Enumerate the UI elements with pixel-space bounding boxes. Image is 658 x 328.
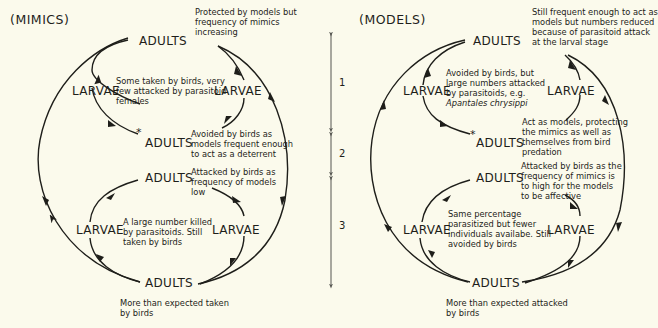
mimics-upper-left-larvae: LARVAE: [72, 84, 120, 98]
mimics-arrows: [38, 38, 287, 284]
models-lower-left-larvae: LARVAE: [403, 223, 451, 237]
mimics-upper-right-larvae: LARVAE: [214, 84, 262, 98]
models-upper-left-larvae: LARVAE: [403, 84, 451, 98]
models-upper-right-larvae: LARVAE: [547, 84, 595, 98]
models-lower-note: Attacked by birds as the frequency of mi…: [521, 161, 622, 201]
scale-segment-3: 3: [339, 220, 345, 231]
mimics-mid-note: Avoided by birds as models frequent enou…: [191, 129, 293, 159]
mimics-bottom-note: More than expected taken by birds: [120, 298, 229, 318]
models-mid-adults: ADULTS: [476, 136, 524, 150]
models-upper-center-species: Apantales chrysippi: [446, 98, 528, 108]
mimics-bottom-adults: ADULTS: [145, 276, 193, 290]
mimics-top-note: Protected by models but frequency of mim…: [195, 7, 297, 37]
mimics-mid-star: *: [136, 126, 142, 139]
lower-larvae-to-adults: [90, 180, 138, 222]
species-name: Apantales chrysippi: [446, 98, 528, 108]
models-mid-note: Act as models, protecting the mimics as …: [522, 117, 628, 157]
mimics-lower-right-larvae: LARVAE: [212, 223, 260, 237]
mimics-lower-left-larvae: LARVAE: [76, 223, 124, 237]
mimics-top-adults: ADULTS: [139, 34, 187, 48]
models-lower-center-note: Same percentage parasitized but fewer in…: [448, 209, 551, 249]
models-lower-right-larvae: LARVAE: [547, 223, 595, 237]
scale-segment-1: 1: [339, 77, 345, 88]
mimics-lower-note: Attacked by birds as frequency of models…: [191, 167, 276, 197]
scale-segment-2: 2: [339, 148, 345, 159]
models-upper-center-note: Avoided by birds, but large numbers atta…: [446, 68, 545, 98]
mimics-lower-center-note: A large number killed by parasitoids. St…: [123, 217, 212, 247]
mimics-title: (MIMICS): [10, 12, 69, 27]
models-top-adults: ADULTS: [473, 34, 521, 48]
mimics-upper-center-note: Some taken by birds, very few attacked b…: [116, 76, 226, 106]
models-bottom-adults: ADULTS: [472, 276, 520, 290]
models-bottom-note: More than expected attacked by birds: [446, 298, 568, 318]
models-title: (MODELS): [359, 12, 426, 27]
models-lower-adults: ADULTS: [476, 171, 524, 185]
mimics-lower-adults: ADULTS: [145, 171, 193, 185]
models-mid-star: *: [470, 128, 476, 141]
models-top-note: Still frequent enough to act as models b…: [532, 7, 658, 47]
mimics-mid-adults: ADULTS: [145, 136, 193, 150]
